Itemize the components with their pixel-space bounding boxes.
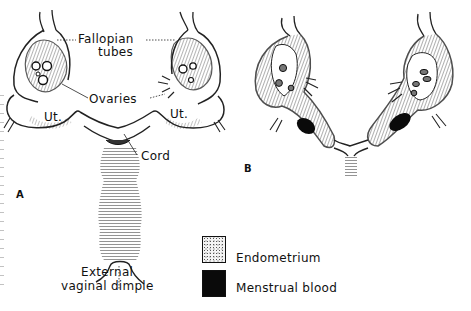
label-ovaries: Ovaries bbox=[89, 93, 137, 105]
label-cord: Cord bbox=[141, 150, 170, 162]
legend-swatch-endometrium bbox=[202, 236, 226, 263]
legend-label-endometrium: Endometrium bbox=[236, 252, 321, 264]
panel-letter-b: B bbox=[244, 164, 252, 174]
figure: Fallopian tubes Ovaries Ut. Ut. Cord Ext… bbox=[0, 0, 471, 311]
label-vaginal-dimple: vaginal dimple bbox=[61, 280, 154, 292]
legend-swatch-menstrual-blood bbox=[202, 270, 226, 297]
label-fallopian: Fallopian bbox=[78, 33, 134, 45]
panel-letter-a: A bbox=[16, 190, 24, 200]
panel-b-drawing bbox=[255, 12, 453, 178]
legend-label-menstrual-blood: Menstrual blood bbox=[236, 282, 337, 294]
label-external: External bbox=[81, 266, 133, 278]
label-uterus-right: Ut. bbox=[170, 108, 188, 120]
label-tubes: tubes bbox=[98, 46, 133, 58]
label-uterus-left: Ut. bbox=[44, 111, 62, 123]
